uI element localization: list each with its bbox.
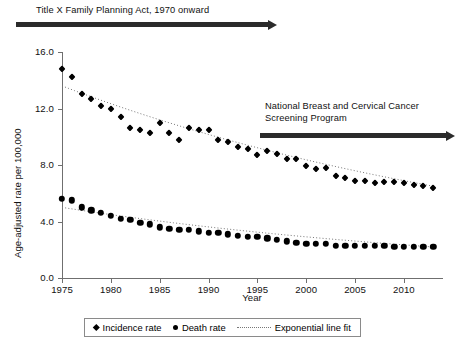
plot-area: 0.04.08.012.016.0 1975198019851990199520… xyxy=(0,0,462,300)
legend-label-incidence: Incidence rate xyxy=(103,322,162,333)
exponential-fit-line xyxy=(62,86,433,186)
legend-label-fit: Exponential line fit xyxy=(275,322,351,333)
dotted-line-icon xyxy=(237,327,271,328)
exponential-fit-lines xyxy=(0,0,462,300)
legend-item-death: Death rate xyxy=(173,322,226,333)
chart-legend: Incidence rate Death rate Exponential li… xyxy=(84,318,361,337)
legend-item-fit: Exponential line fit xyxy=(237,322,351,333)
chart-figure: Title X Family Planning Act, 1970 onward… xyxy=(0,0,462,344)
legend-label-death: Death rate xyxy=(182,322,226,333)
exponential-fit-line xyxy=(62,207,433,247)
diamond-marker-icon xyxy=(93,324,99,330)
circle-marker-icon xyxy=(173,325,178,330)
legend-item-incidence: Incidence rate xyxy=(94,322,162,333)
